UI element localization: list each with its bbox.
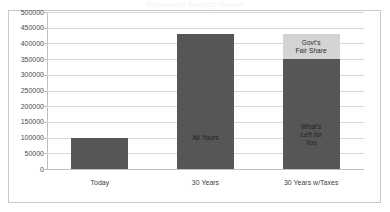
bar-segment-label: Govt's Fair Share [283, 39, 340, 55]
y-axis-tick-label: 0 [0, 166, 44, 173]
y-axis-tick-label: 150000 [0, 118, 44, 125]
y-axis-tickmark [44, 91, 47, 92]
x-axis-category-label: 30 Years w/Taxes [258, 175, 364, 191]
y-axis-tickmark [44, 169, 47, 170]
y-axis-tick-label: 50000 [0, 150, 44, 157]
x-axis-category-label: Today [47, 175, 153, 191]
y-axis-tick-label: 300000 [0, 71, 44, 78]
plot-area: All YoursWhat's Left for YouGovt's Fair … [47, 12, 364, 169]
y-axis-tickmark [44, 153, 47, 154]
chart-title: Retirement Savings Growth [0, 0, 390, 9]
y-axis-tickmark [44, 138, 47, 139]
y-axis-tick-label: 250000 [0, 87, 44, 94]
y-axis-tick-label: 350000 [0, 56, 44, 63]
y-axis-tickmark [44, 75, 47, 76]
y-axis-tickmark [44, 12, 47, 13]
y-axis-tickmark [44, 28, 47, 29]
y-axis-tick-label: 500000 [0, 9, 44, 16]
x-axis-labels: Today30 Years30 Years w/Taxes [47, 175, 364, 191]
y-axis-tick-label: 100000 [0, 134, 44, 141]
y-axis-tick-label: 450000 [0, 24, 44, 31]
bar-segment[interactable] [71, 138, 128, 169]
y-axis-tickmark [44, 122, 47, 123]
bar-3[interactable]: What's Left for YouGovt's Fair Share [283, 12, 340, 169]
y-axis-tick-label: 400000 [0, 40, 44, 47]
bar-2[interactable]: All Yours [177, 12, 234, 169]
bar-segment[interactable]: Govt's Fair Share [283, 34, 340, 59]
y-axis-tickmark [44, 59, 47, 60]
bar-segment[interactable]: All Yours [177, 34, 234, 169]
y-axis-tick-label: 200000 [0, 103, 44, 110]
bar-segment-label: What's Left for You [283, 123, 340, 147]
bar-segment-label: All Yours [177, 134, 234, 142]
y-axis-tickmark [44, 106, 47, 107]
y-axis-tickmark [44, 43, 47, 44]
bar-segment[interactable]: What's Left for You [283, 59, 340, 169]
gridline [47, 169, 364, 170]
bar-1[interactable] [71, 12, 128, 169]
x-axis-category-label: 30 Years [153, 175, 259, 191]
y-axis-labels: 5000004500004000003500003000002500002000… [0, 12, 44, 169]
